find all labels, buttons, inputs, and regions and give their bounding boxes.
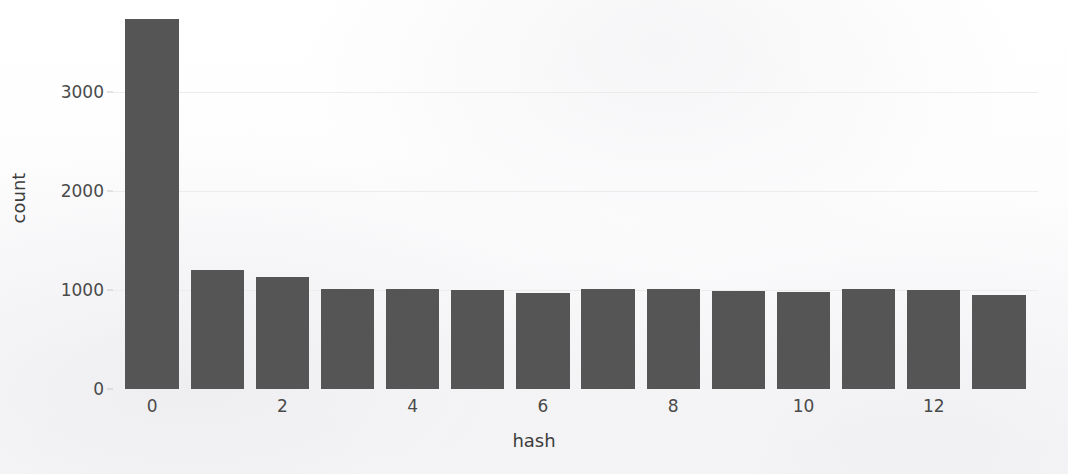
x-axis-title: hash	[512, 430, 555, 451]
bar	[516, 293, 569, 389]
bar	[647, 289, 700, 389]
y-tick-label: 0	[93, 379, 104, 399]
x-tick-label: 2	[277, 396, 288, 416]
x-tick-label: 6	[538, 396, 549, 416]
x-tick-label: 10	[793, 396, 815, 416]
bar	[451, 290, 504, 389]
bar	[581, 289, 634, 389]
x-tick-label: 8	[668, 396, 679, 416]
bar	[907, 290, 960, 389]
bar	[777, 292, 830, 389]
bar	[321, 289, 374, 389]
y-tick-label: 1000	[61, 280, 104, 300]
x-tick-label: 4	[407, 396, 418, 416]
plot-area	[113, 8, 1038, 389]
y-tick-label: 3000	[61, 82, 104, 102]
bar	[386, 289, 439, 389]
y-tick-label: 2000	[61, 181, 104, 201]
bar	[256, 277, 309, 389]
x-tick-label: 0	[147, 396, 158, 416]
bar	[712, 291, 765, 389]
chart-page: count hash 0100020003000 024681012	[0, 0, 1068, 474]
gridline	[113, 191, 1038, 192]
y-axis-title: count	[8, 173, 29, 224]
bar	[972, 295, 1025, 390]
bar	[125, 19, 178, 389]
bar	[191, 270, 244, 389]
gridline	[113, 92, 1038, 93]
bar	[842, 289, 895, 389]
gridline	[113, 290, 1038, 291]
x-tick-label: 12	[923, 396, 945, 416]
